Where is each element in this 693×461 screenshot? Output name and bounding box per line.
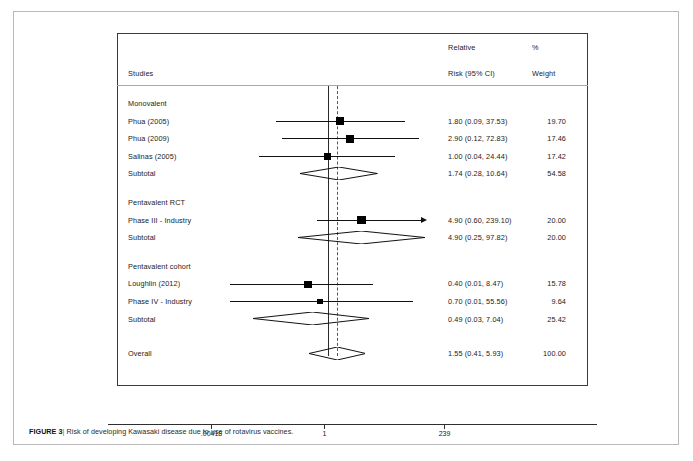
figure-label: FIGURE 3 (29, 427, 63, 436)
confidence-interval-line (317, 220, 422, 221)
row-estimate-overall: 1.55 (0.41, 5.93) (448, 349, 503, 358)
header-divider (117, 85, 588, 86)
effect-marker (324, 153, 332, 161)
axis-tick-label-1: 1 (323, 430, 327, 437)
effect-marker (336, 117, 344, 125)
ci-arrow-icon (421, 217, 427, 223)
row-weight-overall: 100.00 (534, 349, 566, 358)
axis-tick-2 (444, 425, 445, 429)
effect-marker (317, 299, 322, 304)
subtotal-diamond-0 (300, 167, 377, 180)
row-estimate-loughlin-2012: 0.40 (0.01, 8.47) (448, 279, 503, 288)
axis-tick-label-2: 239 (439, 430, 451, 437)
figure-caption: FIGURE 3| Risk of developing Kawasaki di… (29, 427, 293, 436)
caption-text: Risk of developing Kawasaki disease due … (67, 427, 294, 436)
row-weight-phua-2005: 19.70 (534, 117, 566, 126)
row-weight-loughlin-2012: 15.78 (534, 279, 566, 288)
row-estimate-subtotal: 4.90 (0.25, 97.82) (448, 233, 507, 242)
row-label-phua-2009: Phua (2009) (128, 134, 169, 143)
row-weight-subtotal: 20.00 (534, 233, 566, 242)
column-header-percent: % (532, 43, 539, 52)
row-label-salinas-2005: Salinas (2005) (128, 152, 176, 161)
subtotal-diamond-2 (253, 312, 369, 325)
group-heading-pentavalent-cohort: Pentavalent cohort (128, 262, 191, 271)
group-heading-monovalent: Monovalent (128, 99, 167, 108)
row-estimate-phase-iv-industry: 0.70 (0.01, 55.56) (448, 297, 507, 306)
row-weight-phua-2009: 17.46 (534, 134, 566, 143)
subtotal-diamond-1 (298, 231, 425, 244)
effect-marker (357, 216, 365, 224)
overall-diamond (309, 347, 366, 360)
row-label-subtotal: Subtotal (128, 233, 156, 242)
forest-plot: Studies Relative Risk (95% CI) % Weight … (117, 33, 588, 386)
row-weight-subtotal: 25.42 (534, 315, 566, 324)
row-label-phase-iii-industry: Phase III - Industry (128, 216, 191, 225)
row-label-subtotal: Subtotal (128, 315, 156, 324)
row-label-phua-2005: Phua (2005) (128, 117, 169, 126)
effect-marker (304, 281, 311, 288)
row-estimate-phua-2005: 1.80 (0.09, 37.53) (448, 117, 507, 126)
row-estimate-phase-iii-industry: 4.90 (0.60, 239.10) (448, 216, 512, 225)
row-weight-salinas-2005: 17.42 (534, 152, 566, 161)
row-estimate-salinas-2005: 1.00 (0.04, 24.44) (448, 152, 507, 161)
row-label-subtotal: Subtotal (128, 169, 156, 178)
column-header-weight: Weight (532, 69, 555, 78)
row-label-overall: Overall (128, 349, 152, 358)
column-header-studies: Studies (128, 69, 153, 78)
row-weight-subtotal: 54.58 (534, 169, 566, 178)
x-axis-line (108, 424, 597, 425)
row-estimate-subtotal: 1.74 (0.28, 10.64) (448, 169, 507, 178)
confidence-interval-line (230, 284, 373, 285)
effect-marker (346, 135, 354, 143)
row-label-phase-iv-industry: Phase IV - Industry (128, 297, 192, 306)
column-header-risk-ci: Risk (95% CI) (448, 69, 495, 78)
axis-tick-1 (324, 425, 325, 429)
group-heading-pentavalent-rct: Pentavalent RCT (128, 198, 185, 207)
column-header-relative: Relative (448, 43, 476, 52)
caption-separator: | (63, 427, 65, 436)
row-estimate-phua-2009: 2.90 (0.12, 72.83) (448, 134, 507, 143)
row-estimate-subtotal: 0.49 (0.03, 7.04) (448, 315, 503, 324)
row-weight-phase-iv-industry: 9.64 (534, 297, 566, 306)
row-label-loughlin-2012: Loughlin (2012) (128, 279, 180, 288)
figure-page: Studies Relative Risk (95% CI) % Weight … (0, 0, 693, 461)
row-weight-phase-iii-industry: 20.00 (534, 216, 566, 225)
